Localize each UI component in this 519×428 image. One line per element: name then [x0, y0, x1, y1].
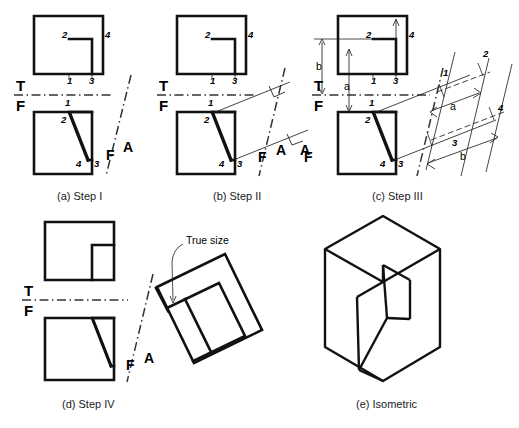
- panel-b-label-f: F: [159, 97, 168, 114]
- panel-a-fold-line-fa: F A: [106, 75, 133, 176]
- panel-c-aux-label-3: 3: [452, 137, 458, 148]
- auxiliary-view-figure: 2 4 1 3 T F 1 2 4 3 F A: [0, 0, 519, 428]
- panel-c-dimension-a: a: [344, 49, 352, 112]
- panel-a-front-label-2: 2: [60, 114, 67, 125]
- panel-c-top-label-4: 4: [408, 29, 415, 40]
- panel-step-4: T F F A True size: [22, 222, 262, 382]
- panel-c-aux-label-4: 4: [497, 102, 504, 113]
- panel-a-fold-line-tf: T F: [14, 77, 112, 114]
- panel-c-top-label-1: 1: [371, 75, 376, 86]
- panel-b-top-view: [177, 16, 246, 74]
- isometric-notch-edge-2: [383, 265, 410, 280]
- panel-c-label-f: F: [314, 97, 323, 114]
- panel-d-label-t: T: [24, 282, 33, 299]
- panel-d-fold-line-fa: F A: [126, 274, 154, 382]
- caption-isometric: (e) Isometric: [356, 398, 417, 410]
- panel-b-label-t: T: [159, 77, 168, 94]
- panel-c-aux-label-1: 1: [443, 67, 448, 78]
- panel-b-front-label-3: 3: [237, 158, 243, 169]
- panel-d-label-a: A: [144, 350, 154, 366]
- panel-a-label-a: A: [123, 139, 133, 155]
- panel-b-fold-line-tf: T F: [157, 77, 255, 114]
- panel-a-front-label-4: 4: [75, 158, 82, 169]
- panel-a-top-label-1: 1: [67, 75, 72, 86]
- panel-d-label-true-size: True size: [186, 234, 229, 246]
- panel-d-front-view: [45, 318, 114, 380]
- panel-c-label-a: A: [300, 142, 310, 158]
- panel-b-front-label-2: 2: [203, 114, 210, 125]
- panel-step-3: 2 4 1 3 b a T F: [300, 16, 512, 176]
- panel-b-top-label-2: 2: [204, 29, 211, 40]
- panel-a-label-f2: F: [106, 147, 115, 163]
- panel-c-front-label-1: 1: [369, 97, 374, 108]
- panel-c-projection-lines: [374, 75, 496, 161]
- panel-c-label-a: a: [344, 80, 350, 92]
- panel-a-top-view: [34, 16, 103, 74]
- isometric-incline-top: [357, 282, 383, 297]
- panel-a-front-label-1: 1: [65, 97, 70, 108]
- panel-c-auxiliary-construction: 1 2 a 3 4 b: [426, 48, 512, 176]
- panel-b-front-label-1: 1: [208, 97, 213, 108]
- panel-b-top-label-1: 1: [210, 75, 215, 86]
- panel-step-1: 2 4 1 3 T F 1 2 4 3 F A: [14, 16, 133, 176]
- panel-a-top-label-2: 2: [61, 29, 68, 40]
- panel-isometric: [325, 216, 440, 381]
- panel-b-top-label-4: 4: [247, 29, 254, 40]
- technical-drawing-canvas: 2 4 1 3 T F 1 2 4 3 F A: [0, 0, 519, 428]
- panel-d-label-f2: F: [126, 357, 135, 373]
- panel-c-top-view: [338, 16, 407, 74]
- panel-c-front-label-3: 3: [398, 158, 404, 169]
- panel-a-top-label-4: 4: [104, 29, 111, 40]
- isometric-notch-bottom: [387, 318, 410, 319]
- caption-step-1: (a) Step I: [57, 190, 102, 202]
- panel-a-label-f: F: [16, 97, 25, 114]
- panel-c-front-label-4: 4: [379, 158, 386, 169]
- panel-a-label-t: T: [16, 77, 25, 94]
- panel-b-label-f2: F: [258, 149, 267, 165]
- caption-step-3: (c) Step III: [372, 190, 423, 202]
- panel-c-front-label-2: 2: [364, 114, 371, 125]
- panel-a-front-label-3: 3: [94, 158, 100, 169]
- panel-c-aux-label-b: b: [460, 150, 466, 162]
- isometric-incline-left: [357, 297, 359, 370]
- isometric-bottom-edge: [359, 370, 383, 381]
- panel-d-top-view: [45, 222, 114, 280]
- caption-step-2: (b) Step II: [213, 190, 261, 202]
- panel-step-2: 2 4 1 3 T F 1 2 4 3 F: [157, 16, 308, 176]
- panel-b-label-a: A: [276, 142, 286, 158]
- panel-d-fold-line-tf: T F: [22, 282, 128, 319]
- panel-c-label-b: b: [316, 60, 322, 72]
- panel-b-front-label-4: 4: [218, 158, 225, 169]
- panel-c-label-t: T: [314, 77, 323, 94]
- panel-c-top-label-2: 2: [365, 29, 372, 40]
- panel-c-aux-label-a: a: [450, 100, 456, 112]
- panel-d-label-f: F: [24, 302, 33, 319]
- caption-step-4: (d) Step IV: [62, 398, 115, 410]
- panel-b-fold-line-fa: F A: [258, 68, 286, 176]
- panel-c-aux-label-2: 2: [482, 48, 489, 59]
